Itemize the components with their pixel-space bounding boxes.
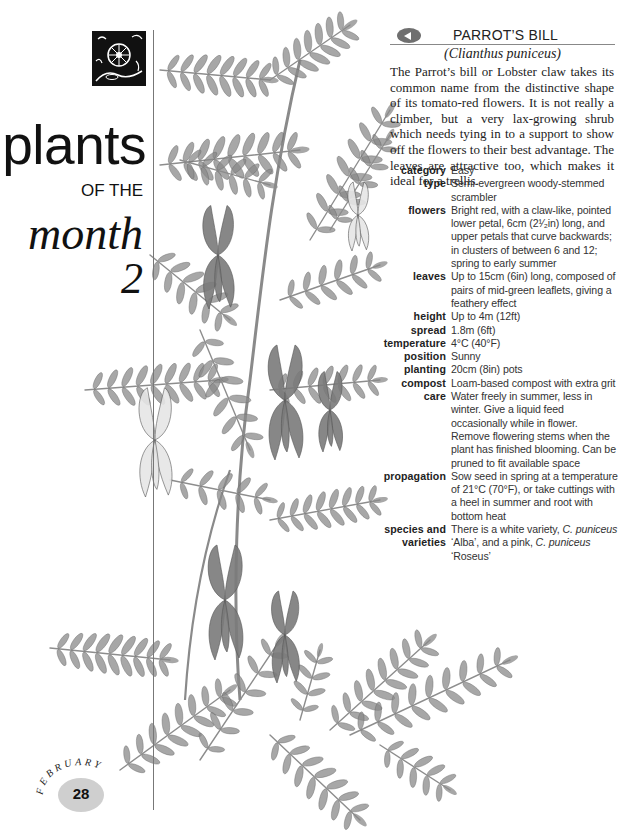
- fact-label: planting: [356, 363, 451, 376]
- leaflet: [387, 739, 404, 752]
- leaflet: [276, 502, 287, 519]
- leaflet: [302, 755, 325, 768]
- leaflet: [289, 515, 305, 532]
- leaflet: [333, 259, 343, 280]
- section-title-month: month: [28, 210, 143, 258]
- leaflet: [427, 696, 449, 715]
- leaflet: [106, 387, 122, 407]
- leaflet: [350, 802, 369, 813]
- leaflet: [290, 697, 304, 712]
- red-flower: [225, 545, 242, 600]
- leaflet: [337, 721, 356, 732]
- leaflet: [276, 517, 291, 533]
- fact-value: Loam-based compost with extra grit: [451, 377, 618, 390]
- leaflet: [242, 178, 253, 198]
- leaflet: [425, 675, 434, 698]
- fact-label: propagation: [356, 470, 451, 523]
- leaflet: [319, 284, 338, 302]
- leaflet: [165, 70, 178, 89]
- leaflet: [346, 137, 363, 160]
- red-flower: [268, 345, 285, 400]
- leaflet: [197, 486, 209, 506]
- leaflet: [376, 720, 396, 737]
- leaflet: [106, 653, 122, 676]
- leaflet: [303, 30, 312, 53]
- leaflet: [357, 121, 373, 142]
- red-flower: [218, 206, 233, 256]
- leaflet: [397, 759, 404, 778]
- leaflet: [282, 47, 290, 67]
- fact-value: Sunny: [451, 350, 618, 363]
- leaflet: [56, 632, 71, 650]
- fact-value: Easy: [451, 164, 618, 177]
- leaflet: [191, 340, 207, 358]
- fact-value: There is a white variety, C. puniceus ‘A…: [451, 523, 618, 563]
- leaflet: [80, 651, 95, 673]
- leaflet: [244, 432, 263, 441]
- leaflet: [335, 278, 355, 296]
- fact-label: leaves: [356, 270, 451, 310]
- leaflet: [68, 650, 82, 670]
- leaflet: [337, 217, 352, 223]
- leaflet: [167, 163, 184, 182]
- fact-label: height: [356, 310, 451, 323]
- leaflet: [182, 270, 205, 285]
- leaflet: [384, 751, 390, 768]
- species-name: C. puniceus: [562, 523, 617, 535]
- leaflet: [235, 476, 253, 495]
- leaflet: [314, 491, 327, 512]
- fact-row: planting20cm (8in) pots: [356, 363, 618, 376]
- leaflet: [161, 713, 171, 735]
- leaflet: [317, 788, 329, 811]
- fact-value: Up to 15cm (6in) long, composed of pairs…: [451, 270, 618, 310]
- leaflet: [501, 653, 520, 666]
- leaflet: [216, 472, 234, 492]
- leaflet: [131, 656, 146, 678]
- leaflet: [240, 132, 257, 157]
- plant-common-name: PARROT’S BILL: [453, 27, 558, 43]
- section-number: 2: [121, 256, 143, 302]
- leaflet: [316, 642, 325, 657]
- leaflet: [408, 683, 417, 705]
- leaflet: [353, 680, 364, 702]
- leaflet: [324, 173, 341, 195]
- magazine-page: plants OF THE month 2 FEBRUARY 28 PARROT…: [0, 0, 618, 831]
- leaflet: [420, 646, 439, 658]
- fact-value: 4°C (40°F): [451, 337, 618, 350]
- leaflet: [262, 496, 279, 505]
- leaflet: [426, 763, 446, 778]
- fact-label: compost: [356, 377, 451, 390]
- leaflet: [230, 76, 245, 98]
- leaflet: [166, 144, 180, 164]
- column-divider: [153, 30, 154, 810]
- leaflet: [288, 295, 304, 310]
- leaflet: [270, 742, 280, 761]
- leaflet: [254, 482, 270, 499]
- fact-label: position: [356, 350, 451, 363]
- leaflet: [170, 260, 192, 274]
- leaflet: [304, 289, 322, 306]
- leaflet: [205, 338, 224, 346]
- leaflet: [197, 732, 209, 749]
- leaflet: [204, 74, 220, 97]
- leaflet: [154, 742, 176, 757]
- leaflet: [260, 638, 273, 656]
- leaflet: [277, 734, 296, 745]
- frond-stem: [200, 640, 280, 760]
- leaflet: [237, 413, 259, 423]
- leaflet: [198, 469, 215, 487]
- leaflet: [233, 708, 253, 716]
- fact-value: Water freely in summer, less in winter. …: [451, 390, 618, 470]
- red-flower: [203, 206, 218, 256]
- leaflet: [314, 23, 323, 45]
- leaflet: [91, 371, 104, 389]
- leaflet: [148, 363, 164, 386]
- leaflet: [341, 29, 360, 43]
- woodcut-flower-icon: [92, 31, 146, 86]
- leaflet: [338, 790, 360, 803]
- leaflet: [305, 212, 319, 231]
- leaflet: [244, 77, 259, 98]
- section-title-plants: plants: [2, 118, 146, 173]
- leaflet: [400, 746, 420, 760]
- frond-stem: [350, 660, 510, 735]
